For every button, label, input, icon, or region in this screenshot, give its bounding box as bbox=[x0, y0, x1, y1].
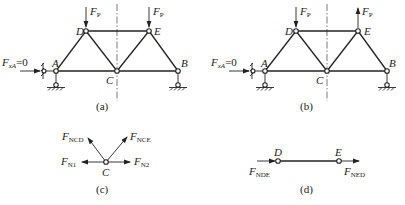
support-a bbox=[256, 71, 274, 91]
node-label-e: E bbox=[153, 25, 161, 37]
support-force-label: FxA=0 bbox=[210, 56, 237, 70]
node-label-c: C bbox=[106, 74, 114, 86]
node-label-c: C bbox=[316, 74, 324, 86]
truss-figure: FP FP FxA=0 A D E C B (a) bbox=[0, 0, 405, 205]
panel-d: D E FNDE FNED (d) bbox=[248, 146, 365, 196]
joint-d bbox=[294, 29, 299, 34]
panel-c: FNCD FNCE FN1 FN2 C (c) bbox=[60, 130, 151, 196]
joint-a bbox=[263, 69, 268, 74]
joint-e bbox=[337, 159, 342, 164]
load-label-d: FP bbox=[299, 5, 311, 19]
joint-d bbox=[84, 29, 89, 34]
joint-c bbox=[104, 160, 109, 165]
joint-e bbox=[147, 29, 152, 34]
truss-members bbox=[265, 31, 387, 71]
force-arrow-ncd bbox=[88, 138, 106, 162]
joint-c bbox=[325, 69, 330, 74]
force-label-n2: FN2 bbox=[133, 155, 150, 169]
support-b bbox=[378, 71, 396, 91]
force-label-nce: FNCE bbox=[129, 130, 151, 144]
joint-c bbox=[115, 69, 120, 74]
node-label-d: D bbox=[284, 25, 293, 37]
node-label-d: D bbox=[75, 25, 84, 37]
node-label-b: B bbox=[181, 57, 188, 69]
caption-b: (b) bbox=[300, 100, 313, 113]
node-label-e: E bbox=[363, 25, 371, 37]
node-label-b: B bbox=[389, 57, 396, 69]
joint-b bbox=[176, 69, 181, 74]
joint-b bbox=[385, 69, 390, 74]
force-arrow-nce bbox=[106, 137, 127, 162]
node-label-d: D bbox=[273, 146, 282, 158]
node-label-c: C bbox=[102, 166, 110, 178]
joint-a bbox=[54, 69, 59, 74]
support-a bbox=[47, 71, 65, 91]
caption-c: (c) bbox=[96, 183, 109, 196]
node-label-a: A bbox=[260, 57, 268, 69]
force-label-ncd: FNCD bbox=[61, 130, 84, 144]
force-label-n1: FN1 bbox=[60, 155, 77, 169]
support-force-label: FxA=0 bbox=[1, 56, 28, 70]
caption-d: (d) bbox=[300, 183, 313, 196]
panel-a: FP FP FxA=0 A D E C B (a) bbox=[1, 4, 188, 113]
joint-d bbox=[276, 159, 281, 164]
panel-b: FP FP FxA=0 A D E C B (b) bbox=[210, 4, 396, 113]
node-label-a: A bbox=[51, 57, 59, 69]
force-label-nde: FNDE bbox=[248, 165, 270, 179]
support-b bbox=[169, 71, 187, 91]
load-label-d: FP bbox=[89, 5, 101, 19]
node-label-e: E bbox=[334, 146, 342, 158]
load-label-e: FP bbox=[152, 5, 164, 19]
load-label-e: FP bbox=[361, 5, 373, 19]
joint-e bbox=[356, 29, 361, 34]
force-label-ned: FNED bbox=[343, 165, 365, 179]
caption-a: (a) bbox=[96, 100, 109, 113]
